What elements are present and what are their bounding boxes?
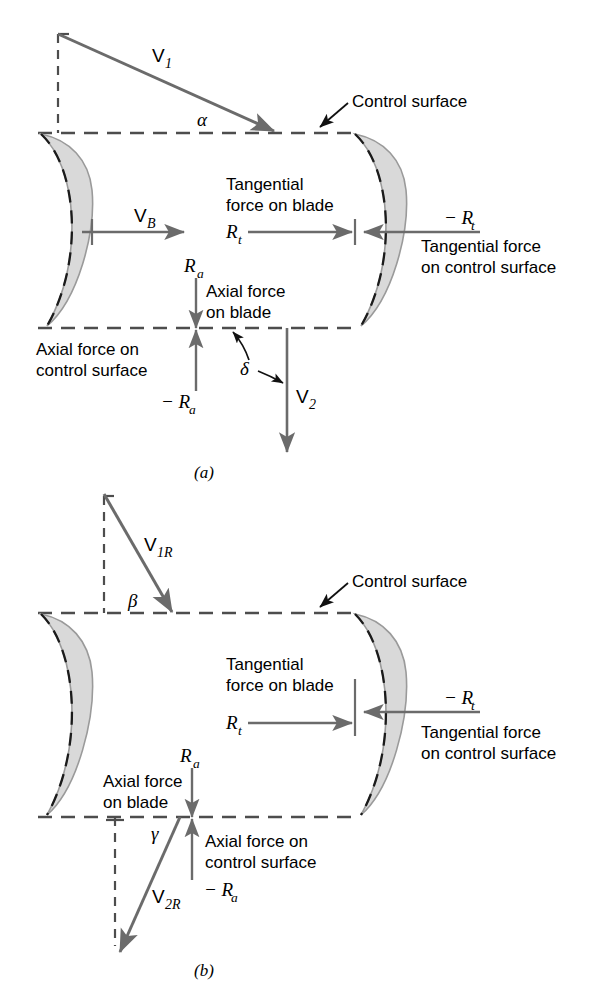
- panel-b-caption: (b): [194, 961, 214, 980]
- axial-cs-text-a-line1: Axial force on: [36, 340, 139, 359]
- axial-cs-text-b-line1: Axial force on: [205, 832, 308, 851]
- control-surface-label-a: Control surface: [352, 92, 467, 111]
- blade-right-a: [355, 134, 407, 326]
- panel-a-caption: (a): [194, 463, 214, 482]
- angle-gamma-label: γ: [151, 823, 159, 844]
- force-rt-subscript-a: t: [238, 232, 243, 247]
- axial-cs-text-a-line2: control surface: [36, 361, 148, 380]
- velocity-v1r-label: V: [144, 534, 157, 555]
- velocity-v1-arrow: [58, 34, 274, 131]
- force-neg-ra-label-b: − R: [204, 879, 234, 900]
- velocity-v2r-subscript: 2R: [165, 897, 181, 912]
- blade-left-a-body: [41, 134, 93, 326]
- control-surface-label-b: Control surface: [352, 572, 467, 591]
- turbine-blade-diagram: V 1 α Control surface V B Tangential for…: [0, 0, 605, 986]
- force-neg-rt-label-a: − R: [444, 207, 474, 228]
- velocity-v2r-arrow: [120, 817, 180, 952]
- axial-blade-text-b-line1: Axial force: [103, 772, 182, 791]
- tangential-blade-text-b-line1: Tangential: [226, 655, 304, 674]
- tangential-cs-text-b-line2: on control surface: [421, 744, 556, 763]
- axial-blade-text-b-line2: on blade: [103, 793, 168, 812]
- angle-alpha-label: α: [197, 109, 208, 130]
- panel-b: V 1R β Control surface Tangential force …: [38, 494, 556, 980]
- velocity-v2-label: V: [296, 386, 309, 407]
- velocity-v2r-label: V: [152, 886, 165, 907]
- force-neg-ra-label-a: − R: [161, 391, 191, 412]
- blade-left-b-body: [41, 614, 93, 815]
- blade-left-b: [41, 614, 93, 815]
- blade-velocity-vb-subscript: B: [147, 216, 156, 231]
- tangential-blade-text-b-line2: force on blade: [226, 676, 334, 695]
- angle-beta-label: β: [127, 590, 138, 611]
- force-rt-label-a: R: [225, 221, 238, 242]
- angle-delta-arrow-up-a: [233, 332, 249, 360]
- blade-right-b: [355, 614, 407, 815]
- blade-right-a-body: [355, 134, 407, 326]
- force-ra-label-a: R: [183, 255, 196, 276]
- panel-a: V 1 α Control surface V B Tangential for…: [36, 34, 556, 482]
- axial-cs-text-b-line2: control surface: [205, 853, 317, 872]
- tangential-cs-text-b-line1: Tangential force: [421, 723, 541, 742]
- blade-velocity-vb-label: V: [134, 205, 147, 226]
- tangential-blade-text-a-line1: Tangential: [226, 175, 304, 194]
- axial-blade-text-a-line2: on blade: [206, 303, 271, 322]
- tangential-cs-text-a-line1: Tangential force: [421, 237, 541, 256]
- force-ra-subscript-b: a: [193, 756, 200, 771]
- tangential-blade-text-a-line2: force on blade: [226, 196, 334, 215]
- control-surface-leader-a: [320, 103, 348, 127]
- velocity-v1r-subscript: 1R: [157, 545, 173, 560]
- velocity-v1-label: V: [152, 45, 165, 66]
- force-neg-rt-label-b: − R: [444, 687, 474, 708]
- force-neg-ra-subscript-a: a: [189, 402, 196, 417]
- velocity-v2-subscript: 2: [309, 397, 316, 412]
- angle-delta-arrow-down-a: [258, 371, 283, 383]
- force-neg-ra-subscript-b: a: [231, 890, 238, 905]
- force-ra-label-b: R: [179, 745, 192, 766]
- axial-blade-text-a-line1: Axial force: [206, 282, 285, 301]
- force-rt-label-b: R: [225, 712, 238, 733]
- tangential-cs-text-a-line2: on control surface: [421, 258, 556, 277]
- figure-canvas: V 1 α Control surface V B Tangential for…: [0, 0, 605, 986]
- blade-right-b-body: [355, 614, 407, 815]
- velocity-v1-subscript: 1: [165, 56, 172, 71]
- blade-left-a: [41, 134, 93, 326]
- control-surface-leader-b: [320, 583, 348, 607]
- angle-delta-label: δ: [240, 358, 250, 379]
- force-ra-subscript-a: a: [197, 266, 204, 281]
- force-rt-subscript-b: t: [238, 723, 243, 738]
